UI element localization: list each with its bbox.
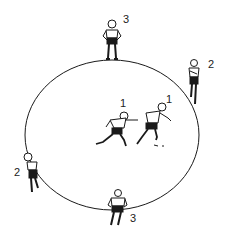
drill-diagram xyxy=(0,0,226,237)
player-top-figure xyxy=(103,20,121,59)
player-bottom-figure xyxy=(108,190,127,226)
player-right-figure xyxy=(189,60,199,105)
label-right: 2 xyxy=(208,59,214,70)
label-top: 3 xyxy=(123,14,129,25)
label-center-right: 1 xyxy=(166,94,172,105)
label-left: 2 xyxy=(14,167,20,178)
player-left-figure xyxy=(24,153,38,192)
label-bottom: 3 xyxy=(130,213,136,224)
player-center-right-figure xyxy=(137,103,171,146)
player-center-left-figure xyxy=(96,112,138,146)
label-center-left: 1 xyxy=(120,98,126,109)
